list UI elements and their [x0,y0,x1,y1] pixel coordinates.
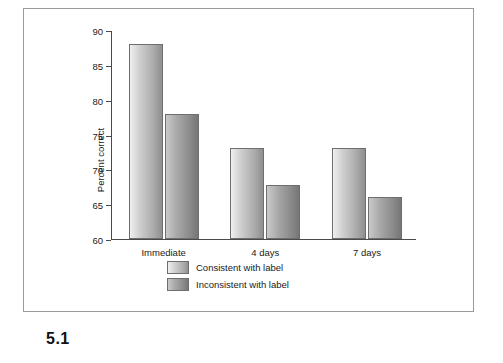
y-tick-mark [106,66,111,67]
y-tick-label: 60 [92,235,103,246]
y-tick-label: 65 [92,200,103,211]
legend-swatch-inconsistent [167,278,189,291]
legend-swatch-consistent [167,261,189,274]
y-tick-label: 85 [92,60,103,71]
figure-caption: 5.1 [46,330,70,348]
legend-label-inconsistent: Inconsistent with label [196,279,289,290]
y-tick-mark [106,170,111,171]
bar [129,44,163,239]
y-tick-mark [106,205,111,206]
bar [230,148,264,239]
bar [165,114,199,239]
x-tick-label: 4 days [251,247,279,258]
x-axis-line [111,239,416,240]
bar [368,197,402,239]
bar [332,148,366,239]
legend-item-inconsistent: Inconsistent with label [167,278,357,291]
y-tick-label: 90 [92,26,103,37]
figure-panel: Percent correct 60657075808590 Immediate… [23,8,474,312]
y-axis-line [111,31,112,240]
plot-area: 60657075808590 Immediate4 days7 days [111,31,416,240]
y-tick-label: 70 [92,165,103,176]
bar [266,185,300,239]
legend-item-consistent: Consistent with label [167,261,357,274]
y-tick-label: 75 [92,130,103,141]
y-tick-mark [106,136,111,137]
y-tick-label: 80 [92,95,103,106]
x-tick-label: 7 days [353,247,381,258]
legend-label-consistent: Consistent with label [196,262,283,273]
y-tick-mark [106,101,111,102]
chart-legend: Consistent with label Inconsistent with … [167,261,357,295]
y-tick-mark [106,31,111,32]
x-tick-label: Immediate [141,247,185,258]
y-tick-mark [106,240,111,241]
